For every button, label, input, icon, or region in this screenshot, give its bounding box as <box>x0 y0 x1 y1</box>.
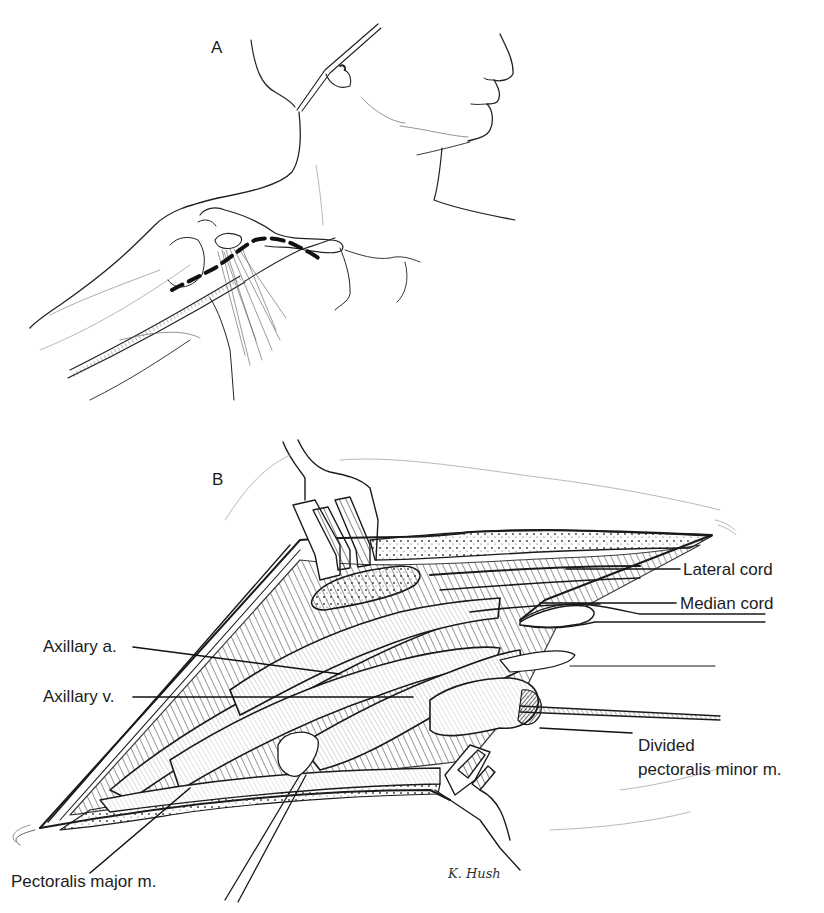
label-axillary-artery: Axillary a. <box>43 637 117 657</box>
panel-a-drawing <box>30 24 515 400</box>
label-axillary-vein: Axillary v. <box>43 687 114 707</box>
label-pectoralis-minor: pectoralis minor m. <box>638 760 782 780</box>
artist-signature: K. Hush <box>448 866 501 881</box>
panel-b-drawing <box>13 440 765 902</box>
upper-rake-retractor <box>283 440 378 580</box>
label-median-cord: Median cord <box>680 594 774 614</box>
lower-rake-retractor <box>435 745 520 870</box>
panel-label-a: A <box>211 38 222 58</box>
label-lateral-cord: Lateral cord <box>683 560 773 580</box>
panel-label-b: B <box>212 470 223 490</box>
anatomical-illustration: A B Lateral cord Median cord Axillary a.… <box>0 0 824 913</box>
label-pectoralis-major: Pectoralis major m. <box>11 872 156 892</box>
label-divided: Divided <box>638 736 695 756</box>
